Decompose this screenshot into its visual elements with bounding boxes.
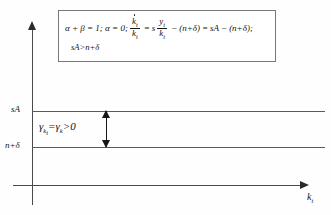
equals-sign-1: = xyxy=(144,24,150,33)
fraction-numerator: kt xyxy=(130,17,140,27)
level-line-n-plus-delta xyxy=(32,147,325,148)
gamma-growth-annotation: γkt=γk>0 xyxy=(39,121,76,133)
gap-arrow-up-head-icon xyxy=(102,110,110,118)
formula-lead: α + β = 1; α = 0; xyxy=(65,24,128,33)
fraction-denominator-subscript: t xyxy=(163,33,165,40)
fraction-kdot-over-k: kt kt xyxy=(130,17,140,39)
fraction-denominator-subscript: t xyxy=(136,33,138,40)
fraction-denominator: kt xyxy=(130,29,140,39)
term-sA: sA xyxy=(210,24,219,33)
level-line-sA xyxy=(32,111,325,112)
formula-line-1: α + β = 1; α = 0; kt kt = s yt kt − (n+δ… xyxy=(65,17,270,39)
equals-sign-2: = xyxy=(202,24,208,33)
y-tick-label-n-plus-delta: n+δ xyxy=(5,141,20,150)
figure-canvas: α + β = 1; α = 0; kt kt = s yt kt − (n+δ… xyxy=(0,0,331,215)
gamma-comparison: >0 xyxy=(63,120,76,132)
fraction-numerator: yt xyxy=(157,17,167,27)
k-dot-variable: k xyxy=(132,17,136,27)
term-n-plus-delta-2: (n+δ); xyxy=(229,24,253,33)
term-n-plus-delta-1: (n+δ) xyxy=(179,24,200,33)
x-axis-label-subscript: t xyxy=(311,197,313,204)
savings-rate-s: s xyxy=(152,24,156,33)
y-axis xyxy=(32,28,33,205)
x-axis-arrowhead-icon xyxy=(300,181,309,189)
x-axis-label: kt xyxy=(307,192,313,202)
formula-line-2: sA>n+δ xyxy=(65,39,270,55)
fraction-y-over-k: yt kt xyxy=(157,17,167,39)
y-axis-arrowhead-icon xyxy=(28,21,36,30)
gap-arrow-down-head-icon xyxy=(102,140,110,148)
x-axis xyxy=(13,185,303,186)
inequality-sA-gt-n-delta: sA>n+δ xyxy=(71,43,99,52)
formula-box: α + β = 1; α = 0; kt kt = s yt kt − (n+δ… xyxy=(58,10,276,62)
minus-sign-1: − xyxy=(171,24,177,33)
y-tick-label-sA: sA xyxy=(11,105,20,114)
minus-sign-2: − xyxy=(221,24,227,33)
fraction-denominator: kt xyxy=(157,29,167,39)
